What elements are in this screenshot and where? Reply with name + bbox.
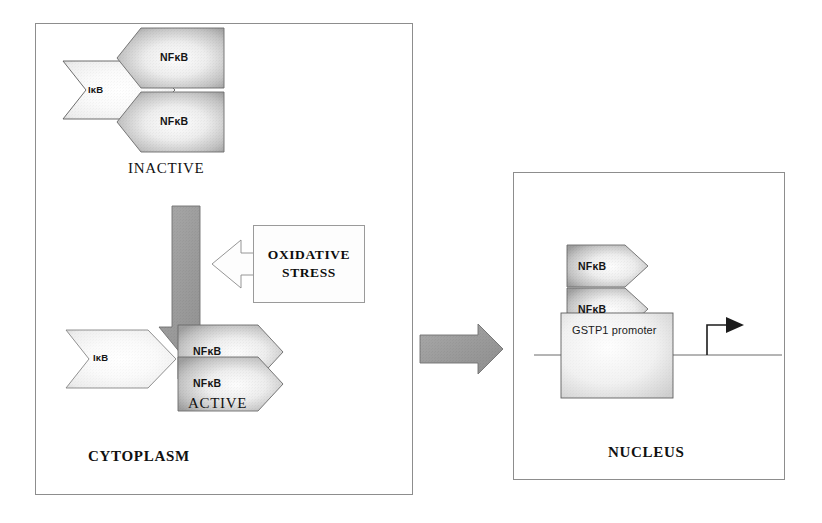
active-ikb-shape [66, 330, 176, 388]
oxidative-stress-line-1: OXIDATIVE [268, 246, 350, 264]
oxidative-stress-box: OXIDATIVE STRESS [253, 225, 365, 303]
inactive-nfkb-label-1: NFκB [160, 51, 188, 63]
oxidative-stress-left-arrow [212, 240, 256, 288]
nucleus-region-label: NUCLEUS [608, 444, 685, 461]
transcription-start-arrow [707, 317, 744, 355]
inactive-ikb-label: IκB [88, 84, 103, 95]
active-ikb-label: IκB [93, 352, 108, 363]
inactive-state-label: INACTIVE [128, 160, 204, 177]
nucleus-nfkb-label-1: NFκB [578, 260, 606, 272]
active-state-label: ACTIVE [188, 395, 247, 412]
oxidative-stress-line-2: STRESS [282, 264, 336, 282]
cytoplasm-region-label: CYTOPLASM [88, 448, 190, 465]
figure-canvas: IκB NFκB NFκB IκB NFκB NFκB NFκB NFκB GS… [0, 0, 822, 523]
translocation-right-arrow [420, 324, 503, 374]
inactive-nfkb-label-2: NFκB [160, 115, 188, 127]
active-nfkb-label-1: NFκB [193, 345, 221, 357]
gstp1-promoter-label: GSTP1 promoter [572, 324, 657, 336]
nucleus-nfkb-label-2: NFκB [578, 303, 606, 315]
diagram-vector-layer [0, 0, 822, 523]
active-nfkb-label-2: NFκB [193, 377, 221, 389]
